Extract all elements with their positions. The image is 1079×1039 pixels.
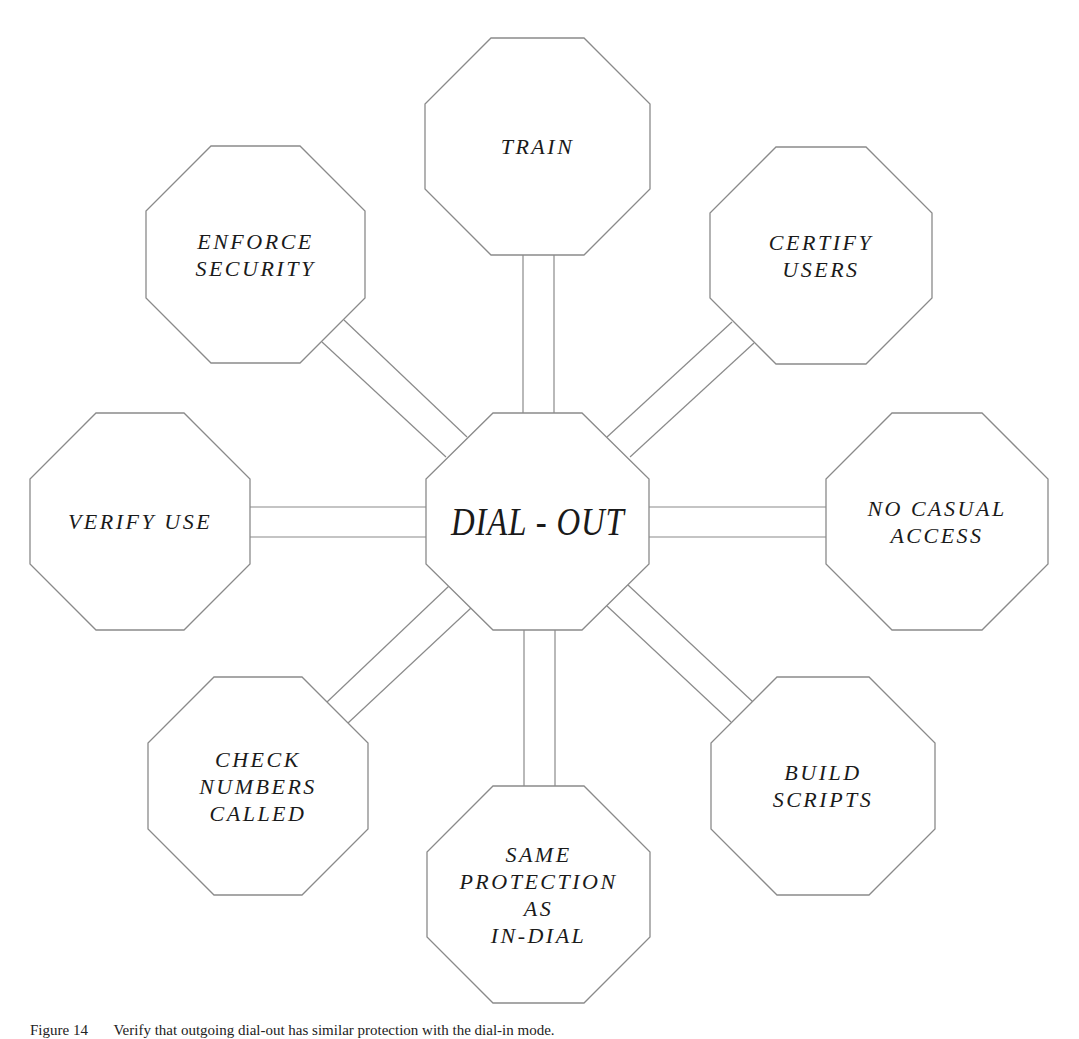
center-node-label: DIAL - OUT [426,413,649,630]
connector-bottom [524,630,555,786]
node-label-line: CHECK [215,746,301,773]
node-same-protection-label: SAME PROTECTION AS IN-DIAL [427,786,650,1003]
node-enforce-security-label: ENFORCE SECURITY [146,146,365,363]
node-build-scripts-label: BUILD SCRIPTS [711,677,935,895]
connector-right [649,507,826,537]
node-label-line: BUILD [784,759,861,786]
node-label-line: NUMBERS [199,773,317,800]
node-label-line: USERS [782,256,859,283]
node-label-line: NO CASUAL [867,495,1006,522]
node-label-line: CERTIFY [769,229,873,256]
node-label-line: SAME [505,841,571,868]
node-label-line: AS [524,895,553,922]
node-label-line: PROTECTION [459,868,617,895]
center-label-text: DIAL - OUT [451,508,624,535]
figure-number: Figure 14 [30,1022,88,1038]
node-certify-users-label: CERTIFY USERS [710,147,932,364]
node-label-line: TRAIN [501,133,575,160]
connector-left [250,507,426,537]
node-check-numbers-called-label: CHECK NUMBERS CALLED [148,677,368,895]
node-train-label: TRAIN [425,38,650,255]
node-label-line: SCRIPTS [773,786,874,813]
node-label-line: ACCESS [890,522,983,549]
caption-text: Verify that outgoing dial-out has simila… [113,1022,554,1038]
node-label-line: VERIFY USE [68,508,212,535]
node-label-line: SECURITY [195,255,315,282]
node-label-line: ENFORCE [197,228,314,255]
connector-train [523,255,554,413]
node-label-line: CALLED [210,800,307,827]
node-no-casual-access-label: NO CASUAL ACCESS [826,413,1048,630]
node-verify-use-label: VERIFY USE [30,413,250,630]
node-label-line: IN-DIAL [491,922,587,949]
figure-caption: Figure 14 Verify that outgoing dial-out … [30,1022,1070,1039]
